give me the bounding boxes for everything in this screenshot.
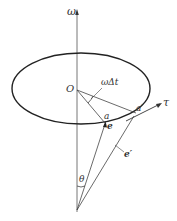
tangent-label: τ <box>163 97 169 108</box>
angle-arc <box>88 96 93 103</box>
vector-e-label: e <box>107 122 113 131</box>
generatrix-e <box>77 124 105 210</box>
origin-label: O <box>66 84 74 94</box>
generatrix-e-prime <box>77 116 134 210</box>
theta-arc <box>77 186 85 187</box>
rotation-cone-diagram: ω O ωΔt a a′ τ e e′ θ <box>0 0 177 221</box>
radius-to-a <box>77 90 105 123</box>
point-a-label: a <box>104 112 109 121</box>
angle-label: ωΔt <box>101 78 118 87</box>
rotation-circle <box>12 53 150 124</box>
radius-to-a-prime <box>77 90 136 113</box>
e-prime-leader-line <box>115 145 124 152</box>
omega-label: ω <box>67 6 76 17</box>
vector-e-prime-label: e′ <box>124 150 132 159</box>
point-a-prime-label: a′ <box>136 104 143 113</box>
tangent-arrow-icon <box>156 103 162 108</box>
theta-label: θ <box>79 175 84 184</box>
diagram-graphics <box>0 0 177 221</box>
